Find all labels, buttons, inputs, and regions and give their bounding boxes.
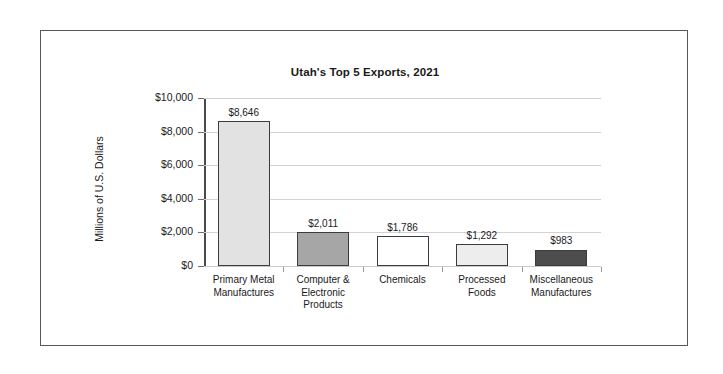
x-axis-category-label: ProcessedFoods [438,274,525,299]
x-axis-category-label: Chemicals [359,274,446,287]
x-axis-category-label-line: Manufactures [518,287,605,300]
y-axis-tick-label: $6,000 [73,158,193,170]
x-axis-category-label-line: Foods [438,287,525,300]
chart-frame: Utah's Top 5 Exports, 2021 Millions of U… [40,30,688,346]
x-axis-category-label-line: Manufactures [200,287,287,300]
x-axis-category-label-line: Chemicals [359,274,446,287]
bar [456,244,508,266]
bar [218,121,270,266]
bar [297,232,349,266]
bar-value-label: $8,646 [204,107,284,118]
x-axis-category-label-line: Computer & [279,274,366,287]
x-axis-category-label-line: Processed [438,274,525,287]
chart-plot-wrapper: Millions of U.S. Dollars $10,000$8,000$6… [41,31,689,347]
bar-value-label: $983 [521,235,601,246]
y-axis-tick-label: $8,000 [73,125,193,137]
x-axis-category-label-line: Products [279,299,366,312]
bar-value-label: $2,011 [283,218,363,229]
x-axis-tick-mark [522,267,523,272]
x-axis-category-label: Primary MetalManufactures [200,274,287,299]
x-axis-tick-mark [283,267,284,272]
x-axis-tick-mark [601,267,602,272]
y-axis-tick-label: $2,000 [73,225,193,237]
x-axis-tick-mark [442,267,443,272]
x-axis-tick-mark [363,267,364,272]
x-axis-category-label: MiscellaneousManufactures [518,274,605,299]
x-axis-category-label: Computer &ElectronicProducts [279,274,366,312]
gridline [204,98,601,99]
bar-value-label: $1,292 [442,230,522,241]
x-axis-category-label-line: Primary Metal [200,274,287,287]
x-axis-category-label-line: Electronic [279,287,366,300]
bar-value-label: $1,786 [363,222,443,233]
y-axis-tick-label: $0 [73,259,193,271]
bar [535,250,587,267]
bar [377,236,429,266]
x-axis-category-label-line: Miscellaneous [518,274,605,287]
y-axis-tick-label: $10,000 [73,91,193,103]
gridline [204,266,601,267]
y-axis-tick-label: $4,000 [73,192,193,204]
